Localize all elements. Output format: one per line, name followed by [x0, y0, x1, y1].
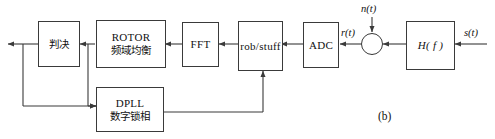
block-rotor-label-latin: ROTOR [112, 31, 151, 44]
block-fft-label: FFT [191, 38, 211, 51]
block-rotor[interactable]: ROTOR 频域均衡 [96, 20, 166, 68]
block-adc-label: ADC [309, 39, 333, 52]
block-adc[interactable]: ADC [303, 22, 339, 68]
signal-label-noise: n(t) [361, 3, 376, 14]
block-robstuff-label: rob/stuff [240, 40, 280, 53]
signal-label-received: r(t) [341, 27, 355, 38]
block-decision-label: 判决 [49, 38, 69, 50]
figure-caption: (b) [378, 110, 391, 122]
figure-block-diagram: 判决 ROTOR 频域均衡 FFT rob/stuff ADC H( f ) D… [0, 0, 495, 139]
block-decision[interactable]: 判决 [38, 21, 80, 67]
block-rotor-label-cjk: 频域均衡 [111, 44, 151, 56]
block-dpll-label-latin: DPLL [116, 97, 145, 110]
signal-label-source: s(t) [464, 27, 478, 38]
summing-junction[interactable] [361, 33, 383, 55]
block-dpll[interactable]: DPLL 数字锁相 [96, 87, 164, 132]
block-fft[interactable]: FFT [182, 22, 219, 67]
block-robstuff[interactable]: rob/stuff [238, 21, 283, 71]
block-dpll-label-cjk: 数字锁相 [110, 110, 150, 122]
block-channel[interactable]: H( f ) [406, 21, 455, 70]
block-channel-label: H( f ) [418, 39, 444, 52]
